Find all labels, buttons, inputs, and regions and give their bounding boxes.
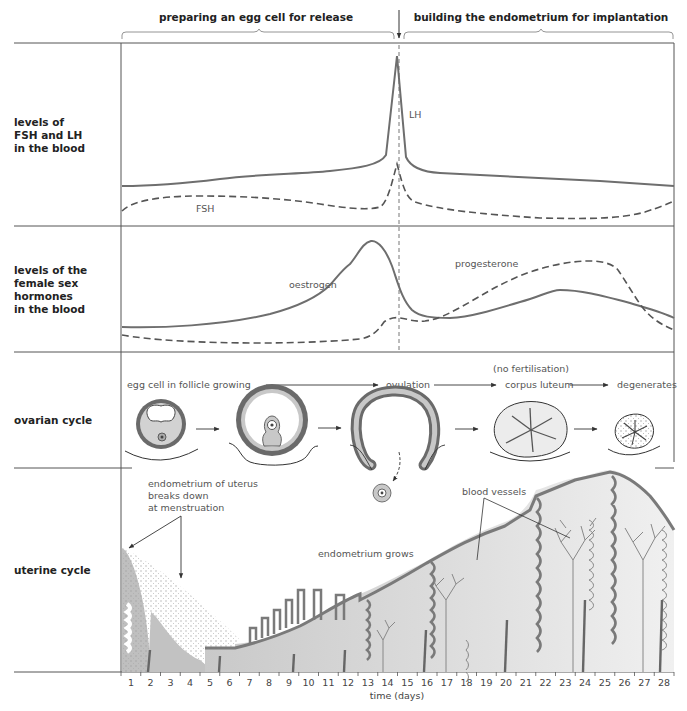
svg-text:16: 16 xyxy=(421,677,433,688)
stage-corpus-luteum: corpus luteum xyxy=(505,379,573,390)
phase-header-right: building the endometrium for implantatio… xyxy=(414,11,669,23)
primary-follicle-icon xyxy=(125,399,198,460)
fsh-label: FSH xyxy=(196,203,214,214)
oestrogen-curve xyxy=(122,241,674,327)
row-labels: levels of FSH and LH in the blood levels… xyxy=(14,116,92,576)
menstrual-cycle-diagram: preparing an egg cell for release buildi… xyxy=(0,0,687,711)
svg-text:3: 3 xyxy=(167,677,173,688)
svg-text:9: 9 xyxy=(286,677,292,688)
row-label-sex-hormones: levels of the female sex hormones in the… xyxy=(14,264,91,315)
svg-text:1: 1 xyxy=(128,677,134,688)
svg-text:15: 15 xyxy=(401,677,413,688)
svg-text:17: 17 xyxy=(441,677,453,688)
row-label-uterine-cycle: uterine cycle xyxy=(14,564,91,576)
svg-text:8: 8 xyxy=(266,677,272,688)
brace-right xyxy=(404,29,673,39)
growing-follicle-icon xyxy=(229,384,318,465)
svg-text:22: 22 xyxy=(540,677,552,688)
svg-text:7: 7 xyxy=(246,677,252,688)
time-axis: 1 2 3 4 5 6 7 8 9 10 11 12 13 14 15 16 1… xyxy=(121,672,674,701)
svg-text:26: 26 xyxy=(619,677,631,688)
lh-label: LH xyxy=(409,109,421,120)
svg-text:10: 10 xyxy=(303,677,315,688)
svg-text:18: 18 xyxy=(461,677,473,688)
svg-text:25: 25 xyxy=(599,677,611,688)
svg-text:20: 20 xyxy=(500,677,512,688)
endometrium-grows-label: endometrium grows xyxy=(318,548,414,559)
menstruation-arrow-1 xyxy=(129,516,181,548)
row-label-ovarian-cycle: ovarian cycle xyxy=(14,414,92,426)
blood-vessels-label: blood vessels xyxy=(462,486,526,497)
brace-left xyxy=(122,29,394,39)
svg-text:6: 6 xyxy=(227,677,233,688)
corpus-luteum-icon xyxy=(490,402,570,462)
no-fertilisation-note: (no fertilisation) xyxy=(493,363,569,374)
svg-text:19: 19 xyxy=(480,677,492,688)
x-axis-label: time (days) xyxy=(370,690,424,701)
svg-text:28: 28 xyxy=(658,677,670,688)
svg-text:14: 14 xyxy=(382,677,394,688)
progesterone-label: progesterone xyxy=(455,258,518,269)
svg-text:11: 11 xyxy=(322,677,334,688)
endometrium-tissue xyxy=(205,470,674,672)
svg-text:12: 12 xyxy=(342,677,354,688)
ovulating-follicle-icon xyxy=(350,391,445,502)
day-labels: 1 2 3 4 5 6 7 8 9 10 11 12 13 14 15 16 1… xyxy=(128,677,670,688)
stage-follicle-growing: egg cell in follicle growing xyxy=(127,379,251,390)
svg-text:21: 21 xyxy=(520,677,532,688)
progesterone-curve xyxy=(122,261,674,343)
axis-ticks xyxy=(121,672,674,676)
phase-headers: preparing an egg cell for release buildi… xyxy=(122,10,673,39)
panel-sex-hormones: oestrogen progesterone xyxy=(122,241,674,343)
oestrogen-label: oestrogen xyxy=(289,279,337,290)
stage-degenerates: degenerates xyxy=(617,379,677,390)
svg-text:24: 24 xyxy=(579,677,591,688)
svg-text:5: 5 xyxy=(207,677,213,688)
menstruation-label: endometrium of uterus breaks down at men… xyxy=(148,478,261,513)
panel-gonadotropins: LH FSH xyxy=(122,56,674,218)
panel-uterine-cycle: endometrium of uterus breaks down at men… xyxy=(122,470,674,682)
svg-text:27: 27 xyxy=(638,677,650,688)
degenerating-corpus-luteum-icon xyxy=(608,414,660,455)
phase-header-left: preparing an egg cell for release xyxy=(159,11,353,23)
row-label-gonadotropins: levels of FSH and LH in the blood xyxy=(14,116,86,154)
svg-text:13: 13 xyxy=(362,677,374,688)
svg-text:4: 4 xyxy=(187,677,193,688)
svg-text:2: 2 xyxy=(148,677,154,688)
svg-text:23: 23 xyxy=(559,677,571,688)
